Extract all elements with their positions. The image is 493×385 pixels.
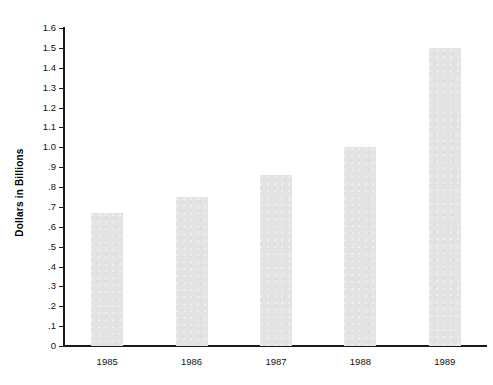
y-axis-tick-mark [59, 28, 65, 29]
y-axis-tick-label: .8 [48, 181, 56, 192]
y-axis-tick-mark [59, 306, 65, 307]
y-axis-tick-mark [59, 326, 65, 327]
y-axis-tick-label: 1.3 [43, 82, 56, 93]
y-axis-tick-label: 1.1 [43, 121, 56, 132]
y-axis-tick-mark [59, 267, 65, 268]
bar [260, 175, 292, 346]
bar [176, 197, 208, 346]
x-axis-label: 1985 [77, 356, 137, 367]
y-axis-tick-mark [59, 167, 65, 168]
y-axis-tick-mark [59, 147, 65, 148]
y-axis-tick-label: .1 [48, 320, 56, 331]
plot-area: 0.1.2.3.4.5.6.7.8.91.01.11.21.31.41.51.6 [65, 28, 487, 346]
x-axis-label: 1987 [246, 356, 306, 367]
y-axis-title: Dollars in Billions [8, 0, 30, 385]
y-axis-tick-label: 1.2 [43, 102, 56, 113]
y-axis-tick-mark [59, 227, 65, 228]
y-axis-tick-label: 1.6 [43, 22, 56, 33]
x-axis-label: 1989 [415, 356, 475, 367]
y-axis-tick-mark [59, 108, 65, 109]
y-axis-tick-label: .9 [48, 161, 56, 172]
bar-chart: Dollars in Billions 0.1.2.3.4.5.6.7.8.91… [0, 0, 493, 385]
y-axis-tick-mark [59, 187, 65, 188]
x-axis-label: 1988 [330, 356, 390, 367]
bar [91, 213, 123, 346]
y-axis-tick-mark [59, 207, 65, 208]
y-axis-tick-label: 1.0 [43, 141, 56, 152]
y-axis-tick-label: .3 [48, 280, 56, 291]
y-axis-tick-label: .6 [48, 221, 56, 232]
y-axis-tick-label: .5 [48, 241, 56, 252]
y-axis-tick-label: .4 [48, 261, 56, 272]
y-axis-tick-label: 1.4 [43, 62, 56, 73]
y-axis-tick-label: 0 [51, 340, 56, 351]
y-axis-tick-mark [59, 247, 65, 248]
y-axis-tick-mark [59, 286, 65, 287]
bar [429, 48, 461, 346]
x-axis-label: 1986 [162, 356, 222, 367]
y-axis-tick-mark [59, 48, 65, 49]
y-axis-tick-mark [59, 68, 65, 69]
y-axis-tick-mark [59, 346, 65, 347]
y-axis-tick-mark [59, 88, 65, 89]
y-axis-tick-label: .7 [48, 201, 56, 212]
y-axis-tick-mark [59, 127, 65, 128]
y-axis-title-label: Dollars in Billions [14, 148, 25, 236]
y-axis-tick-label: 1.5 [43, 42, 56, 53]
y-axis-tick-label: .2 [48, 300, 56, 311]
bar [344, 147, 376, 346]
